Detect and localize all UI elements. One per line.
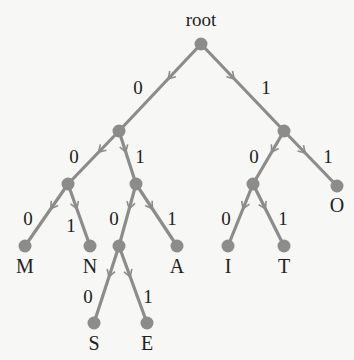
edge-bit-label: 1 — [143, 286, 153, 307]
node-I — [222, 240, 235, 253]
node-T — [278, 240, 291, 253]
edge-bit-label: 0 — [69, 146, 79, 167]
edge-bit-label: 1 — [323, 146, 333, 167]
node-root — [195, 38, 208, 51]
node-n00 — [62, 178, 75, 191]
edge-bit-label: 0 — [109, 208, 119, 229]
node-n10 — [247, 178, 260, 191]
node-M — [19, 240, 32, 253]
leaf-label-N: N — [83, 255, 97, 277]
edge-bit-label: 1 — [261, 77, 271, 98]
node-n01 — [130, 178, 143, 191]
leaf-label-S: S — [88, 332, 99, 354]
edge-bit-label: 0 — [221, 208, 231, 229]
edge-bit-label: 1 — [135, 146, 145, 167]
node-n0 — [113, 125, 126, 138]
edge-n0-n01 — [119, 131, 136, 184]
root-label: root — [186, 9, 217, 30]
edge-bit-label: 1 — [167, 208, 177, 229]
node-A — [171, 240, 184, 253]
edge-n01-n010 — [119, 184, 136, 246]
edge-root-n1 — [201, 44, 284, 131]
node-O — [331, 180, 344, 193]
node-N — [84, 240, 97, 253]
edge-bit-label: 0 — [83, 286, 93, 307]
leaf-label-O: O — [330, 194, 344, 216]
node-n1 — [278, 125, 291, 138]
leaf-label-T: T — [278, 255, 290, 277]
edge-n010-E — [119, 246, 147, 323]
node-S — [88, 317, 101, 330]
prefix-code-tree: 01010101010101 rootOMNAITSE — [0, 0, 354, 360]
edge-n010-S — [94, 246, 119, 323]
node-n010 — [113, 240, 126, 253]
edge-bit-label: 0 — [249, 146, 259, 167]
edge-bit-label: 0 — [133, 77, 143, 98]
edge-bit-label: 1 — [278, 208, 288, 229]
tree-nodes — [19, 38, 344, 330]
edge-root-n0 — [119, 44, 201, 131]
edge-bit-label: 0 — [23, 208, 33, 229]
leaf-label-E: E — [141, 332, 153, 354]
node-E — [141, 317, 154, 330]
leaf-label-A: A — [170, 255, 185, 277]
edge-bit-label: 1 — [66, 215, 76, 236]
leaf-label-I: I — [225, 255, 232, 277]
leaf-label-M: M — [16, 255, 34, 277]
edge-n10-I — [228, 184, 253, 246]
